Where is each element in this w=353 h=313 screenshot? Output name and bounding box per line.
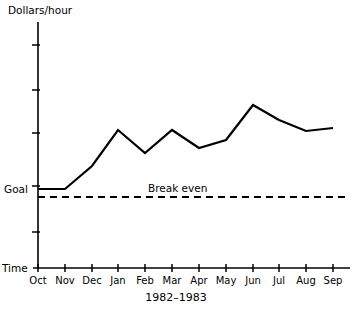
x-tick-label-aug: Aug xyxy=(296,275,316,286)
y-axis-label: Dollars/hour xyxy=(8,4,73,16)
x-tick-label-mar: Mar xyxy=(163,275,183,286)
x-tick-label-apr: Apr xyxy=(190,275,208,286)
x-tick-label-may: May xyxy=(216,275,237,286)
x-tick-label-feb: Feb xyxy=(136,275,154,286)
x-tick-label-sep: Sep xyxy=(324,275,343,286)
chart-canvas: Dollars/hour Goal Time xyxy=(0,0,353,313)
line-chart-figure: Dollars/hour Goal Time xyxy=(0,0,353,313)
goal-axis-label: Goal xyxy=(4,183,28,195)
x-tick-label-oct: Oct xyxy=(29,275,46,286)
x-tick-label-jan: Jan xyxy=(109,275,125,286)
break-even-annotation: Break even xyxy=(148,182,207,194)
x-tick-label-jul: Jul xyxy=(272,275,285,286)
data-series-line xyxy=(38,105,333,189)
x-tick-labels: Oct Nov Dec Jan Feb Mar Apr May Jun Jul … xyxy=(29,275,342,286)
x-axis-period-caption: 1982–1983 xyxy=(145,291,207,304)
x-tick-label-jun: Jun xyxy=(244,275,261,286)
x-tick-label-nov: Nov xyxy=(55,275,75,286)
x-axis-label: Time xyxy=(1,262,28,274)
x-tick-label-dec: Dec xyxy=(82,275,101,286)
